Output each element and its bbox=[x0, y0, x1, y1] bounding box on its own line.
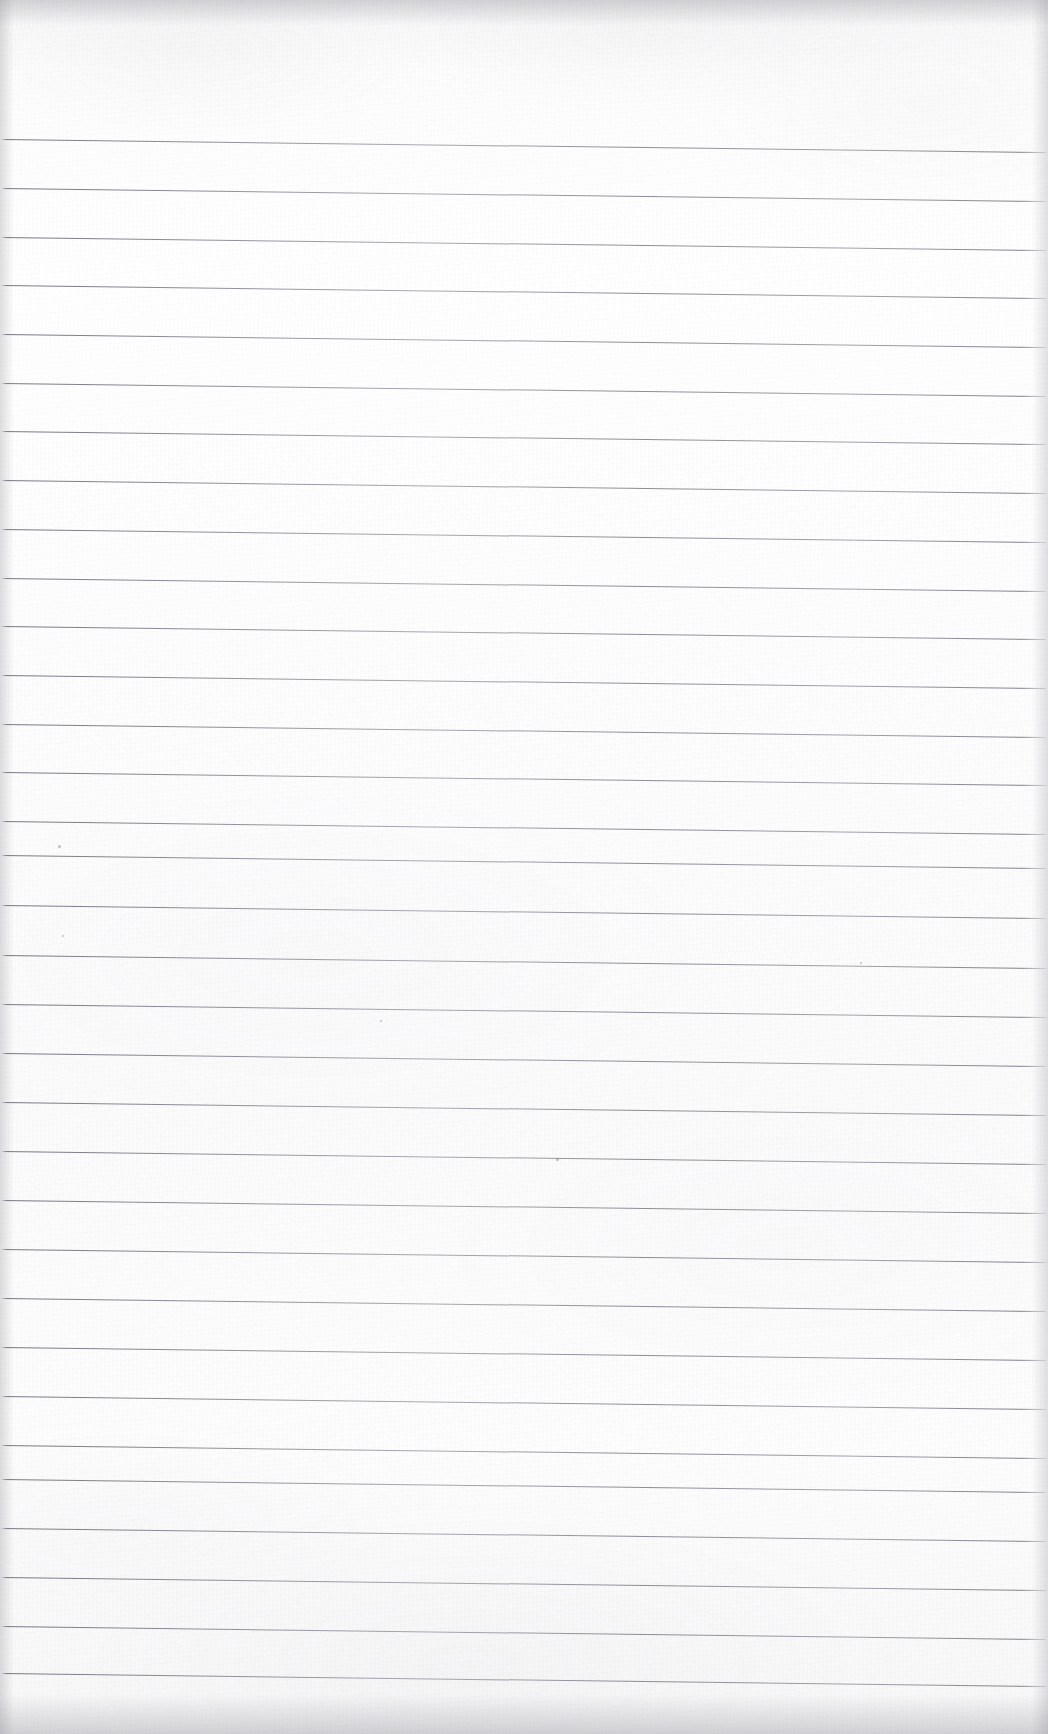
paper-background bbox=[0, 0, 1048, 1734]
scanned-page: Blank Lined Paper Scan bbox=[0, 0, 1048, 1734]
